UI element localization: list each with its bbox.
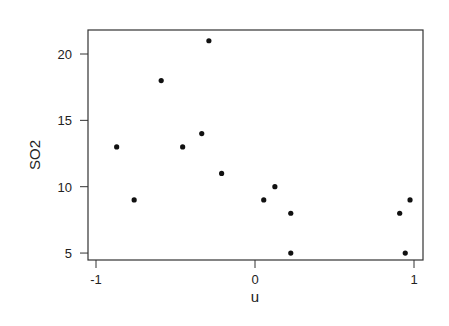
- x-axis: -101: [90, 260, 417, 287]
- data-point: [397, 211, 402, 216]
- y-tick-label: 20: [58, 47, 72, 62]
- y-axis: 5101520: [58, 47, 88, 261]
- y-tick-label: 10: [58, 180, 72, 195]
- x-tick-label: 1: [410, 272, 417, 287]
- data-points: [114, 38, 413, 256]
- data-point: [272, 184, 277, 189]
- y-tick-label: 15: [58, 113, 72, 128]
- y-tick-label: 5: [65, 246, 72, 261]
- data-point: [114, 144, 119, 149]
- x-tick-label: -1: [90, 272, 102, 287]
- x-axis-label: u: [251, 288, 259, 305]
- data-point: [403, 250, 408, 255]
- data-point: [261, 197, 266, 202]
- data-point: [288, 250, 293, 255]
- plot-frame: [88, 30, 423, 260]
- data-point: [132, 197, 137, 202]
- data-point: [180, 144, 185, 149]
- scatter-chart: 5101520 -101 u SO2: [0, 0, 449, 326]
- data-point: [159, 78, 164, 83]
- y-axis-label: SO2: [26, 140, 43, 170]
- data-point: [407, 197, 412, 202]
- data-point: [206, 38, 211, 43]
- data-point: [219, 171, 224, 176]
- data-point: [288, 211, 293, 216]
- x-tick-label: 0: [251, 272, 258, 287]
- data-point: [199, 131, 204, 136]
